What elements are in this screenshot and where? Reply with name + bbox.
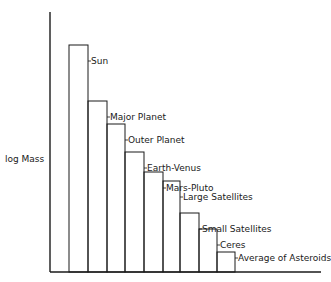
- log-mass-bar-chart: SunMajor PlanetOuter PlanetEarth-VenusMa…: [0, 0, 331, 282]
- bar-label: Outer Planet: [128, 135, 185, 145]
- bar-label: Ceres: [220, 240, 246, 250]
- bar-average-of-asteroids: [217, 252, 235, 272]
- bar-label: Sun: [91, 56, 108, 66]
- bar-label: Large Satellites: [183, 192, 253, 202]
- bar-label: Major Planet: [110, 112, 167, 122]
- bar-earth-venus: [125, 152, 144, 272]
- bar-label: Average of Asteroids: [238, 253, 331, 263]
- bar-ceres: [199, 229, 217, 272]
- bar-mars-pluto: [144, 172, 163, 272]
- bar-major-planet: [88, 101, 107, 272]
- y-axis-label: log Mass: [5, 154, 44, 164]
- bar-sun: [69, 45, 88, 272]
- bar-large-satellites: [163, 181, 180, 272]
- bar-outer-planet: [107, 124, 125, 272]
- bar-small-satellites: [180, 213, 199, 272]
